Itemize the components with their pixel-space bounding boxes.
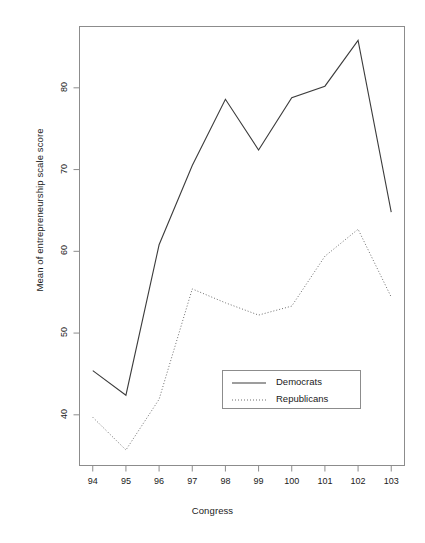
x-tick-label-103: 103 <box>376 476 406 486</box>
x-tick-label-96: 96 <box>144 476 174 486</box>
series-line-democrats <box>93 40 391 395</box>
x-tick-label-94: 94 <box>78 476 108 486</box>
y-tick-label-40: 40 <box>59 404 69 424</box>
y-axis-ticks <box>74 88 80 415</box>
chart-canvas: 4050607080 949596979899100101102103 Mean… <box>0 0 425 543</box>
legend-label-democrats: Democrats <box>276 376 322 387</box>
y-tick-label-60: 60 <box>59 240 69 260</box>
x-tick-label-102: 102 <box>343 476 373 486</box>
series-line-republicans <box>93 229 391 450</box>
y-tick-label-50: 50 <box>59 322 69 342</box>
x-tick-label-101: 101 <box>310 476 340 486</box>
x-axis-ticks <box>93 466 391 472</box>
legend-label-republicans: Republicans <box>276 393 328 404</box>
x-tick-label-98: 98 <box>210 476 240 486</box>
y-axis-title: Mean of entrepreneurship scale score <box>34 60 45 360</box>
x-tick-label-95: 95 <box>111 476 141 486</box>
x-tick-label-99: 99 <box>244 476 274 486</box>
x-tick-label-100: 100 <box>277 476 307 486</box>
y-tick-label-70: 70 <box>59 159 69 179</box>
x-axis-title: Congress <box>0 505 425 516</box>
y-tick-label-80: 80 <box>59 77 69 97</box>
x-tick-label-97: 97 <box>177 476 207 486</box>
